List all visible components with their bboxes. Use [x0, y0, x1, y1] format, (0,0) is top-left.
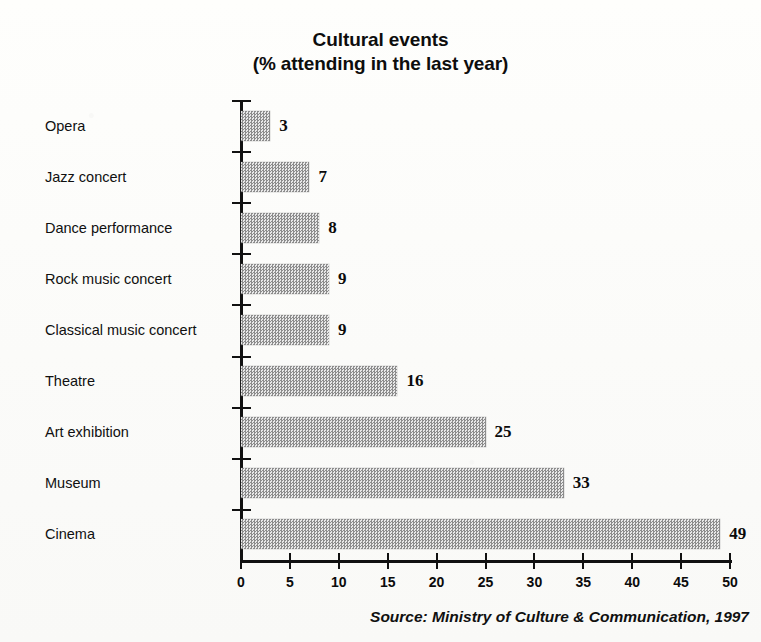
bar	[241, 366, 397, 396]
x-axis-tick	[582, 553, 584, 569]
x-axis-tick-label: 35	[576, 574, 592, 590]
bar	[241, 315, 329, 345]
bar	[241, 264, 329, 294]
category-label: Jazz concert	[45, 169, 126, 185]
bar-value-label: 9	[338, 320, 347, 340]
category-label: Dance performance	[45, 220, 172, 236]
x-axis-tick	[436, 553, 438, 569]
y-axis-tick	[232, 509, 251, 511]
bar-value-label: 49	[729, 524, 746, 544]
x-axis-tick-label: 50	[722, 574, 738, 590]
x-axis-tick-label: 45	[673, 574, 689, 590]
category-label: Classical music concert	[45, 322, 197, 338]
x-axis-tick	[485, 553, 487, 569]
x-axis-tick	[533, 553, 535, 569]
y-axis-tick	[232, 253, 251, 255]
y-axis-tick	[232, 407, 251, 409]
x-axis-tick	[729, 553, 731, 569]
y-axis-tick	[232, 151, 251, 153]
bar	[241, 468, 564, 498]
x-axis-tick-label: 10	[331, 574, 347, 590]
bar-value-label: 9	[338, 269, 347, 289]
y-axis-tick	[232, 100, 251, 102]
category-label: Museum	[45, 475, 101, 491]
x-axis-tick	[387, 553, 389, 569]
x-axis-tick-label: 40	[624, 574, 640, 590]
category-label: Opera	[45, 118, 85, 134]
source-note: Source: Ministry of Culture & Communicat…	[370, 608, 749, 626]
x-axis-tick	[338, 553, 340, 569]
bar-value-label: 8	[328, 218, 337, 238]
y-axis-tick	[232, 304, 251, 306]
category-label: Rock music concert	[45, 271, 172, 287]
x-axis-tick	[631, 553, 633, 569]
x-axis-tick-label: 30	[527, 574, 543, 590]
bar-value-label: 33	[573, 473, 590, 493]
x-axis-tick-label: 25	[478, 574, 494, 590]
x-axis-tick-label: 5	[286, 574, 294, 590]
x-axis-tick	[680, 553, 682, 569]
category-label: Cinema	[45, 526, 95, 542]
category-label: Art exhibition	[45, 424, 129, 440]
bar	[241, 519, 720, 549]
y-axis-tick	[232, 202, 251, 204]
bar-value-label: 3	[279, 116, 288, 136]
y-axis-tick	[232, 356, 251, 358]
bar-value-label: 25	[495, 422, 512, 442]
bar	[241, 162, 309, 192]
x-axis-tick-label: 20	[429, 574, 445, 590]
category-label: Theatre	[45, 373, 95, 389]
bar	[241, 111, 270, 141]
bar-value-label: 16	[406, 371, 423, 391]
bar-value-label: 7	[318, 167, 327, 187]
bar	[241, 417, 486, 447]
x-axis-tick	[289, 553, 291, 569]
x-axis-tick	[240, 553, 242, 569]
bar	[241, 213, 319, 243]
y-axis-tick	[232, 458, 251, 460]
bar-chart-plot-area: Opera3Jazz concert7Dance performance8Roc…	[0, 0, 761, 642]
x-axis-tick-label: 15	[380, 574, 396, 590]
x-axis-tick-label: 0	[237, 574, 245, 590]
